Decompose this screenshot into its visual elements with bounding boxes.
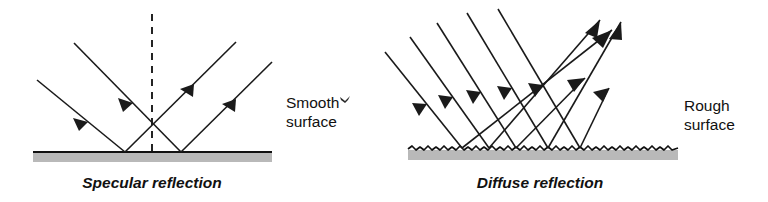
caption-specular-reflection: Specular reflection (82, 174, 222, 191)
rough-surface-label-line1: Rough (684, 97, 730, 114)
rough-surface (408, 146, 678, 160)
rough-surface-label: Rough surface (684, 97, 735, 133)
smooth-surface-label: Smooth surface (286, 94, 339, 130)
arrowhead-icon (438, 95, 453, 109)
specular-reflection-panel: Specular reflection (33, 14, 272, 191)
smooth-surface-label-line2: surface (286, 113, 337, 130)
diffuse-incident-ray-5 (498, 9, 580, 148)
diffuse-reflected-ray-5 (580, 88, 609, 148)
rough-surface-fill (408, 150, 678, 160)
smooth-surface (33, 152, 272, 162)
caption-diffuse-reflection: Diffuse reflection (477, 174, 603, 191)
arrowhead-icon (593, 88, 609, 102)
diffuse-reflected-ray-2 (489, 20, 600, 148)
smooth-surface-label-line1: Smooth (286, 94, 339, 111)
diffuse-reflection-panel: Diffuse reflection (385, 9, 678, 191)
reflection-diagram: Specular reflection Smooth surface (0, 0, 768, 202)
arrowhead-icon (466, 90, 481, 104)
rough-surface-label-line2: surface (684, 116, 735, 133)
specular-reflected-ray-2 (181, 62, 272, 152)
specular-incident-ray-1 (74, 43, 181, 152)
specular-reflected-ray-1 (125, 42, 236, 152)
specular-incident-ray-2 (37, 80, 125, 152)
arrowhead-icon (497, 86, 512, 100)
diffuse-reflected-ray-3 (548, 22, 622, 148)
arrowhead-icon (412, 103, 427, 116)
smooth-surface-fill (33, 153, 272, 162)
scan-speck-artifact (340, 96, 350, 103)
rough-surface-jagged-line (408, 146, 678, 150)
